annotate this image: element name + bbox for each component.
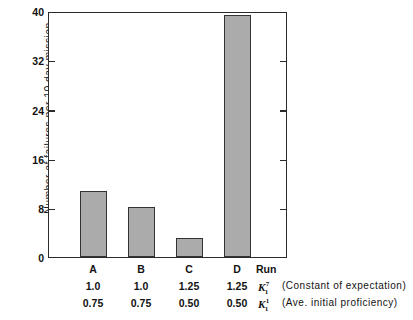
y-tick-label-24: 24 bbox=[18, 105, 44, 117]
row1-k-subscript: 1 bbox=[265, 288, 269, 296]
row1-value-d: 1.25 bbox=[209, 280, 265, 292]
y-tick-mark-16 bbox=[49, 160, 55, 161]
row1-k-superscript: 7 bbox=[266, 280, 270, 288]
row1-k-symbol: K71 bbox=[258, 280, 268, 296]
category-label-row: A B C D Run bbox=[0, 263, 413, 277]
y-tick-mark-8 bbox=[49, 209, 55, 210]
bar-d[interactable] bbox=[224, 15, 251, 257]
bar-b[interactable] bbox=[128, 207, 155, 257]
y-tick-mark-right-8 bbox=[280, 209, 286, 210]
y-tick-mark-right-32 bbox=[280, 61, 286, 62]
chart-plot-area bbox=[48, 12, 287, 258]
bar-a[interactable] bbox=[80, 191, 107, 257]
y-tick-label-8: 8 bbox=[18, 203, 44, 215]
row2-k-symbol: K11 bbox=[258, 297, 268, 313]
y-tick-label-40: 40 bbox=[18, 6, 44, 18]
row2-value-d: 0.50 bbox=[209, 297, 265, 309]
row2-description: (Ave. initial proficiency) bbox=[282, 297, 398, 308]
x-axis-name-run: Run bbox=[256, 263, 276, 275]
annotation-row-constant-of-expectation: 1.0 1.0 1.25 1.25 K71 (Constant of expec… bbox=[0, 280, 413, 294]
y-tick-mark-right-16 bbox=[280, 160, 286, 161]
y-tick-mark-32 bbox=[49, 61, 55, 62]
y-tick-mark-right-24 bbox=[280, 110, 286, 111]
row2-k-superscript: 1 bbox=[266, 297, 270, 305]
annotation-row-ave-initial-proficiency: 0.75 0.75 0.50 0.50 K11 (Ave. initial pr… bbox=[0, 297, 413, 311]
row1-description: (Constant of expectation) bbox=[282, 280, 406, 291]
row2-k-subscript: 1 bbox=[265, 305, 269, 313]
y-tick-label-16: 16 bbox=[18, 154, 44, 166]
y-tick-label-32: 32 bbox=[18, 55, 44, 67]
bar-c[interactable] bbox=[176, 238, 203, 257]
y-tick-mark-24 bbox=[49, 110, 55, 111]
